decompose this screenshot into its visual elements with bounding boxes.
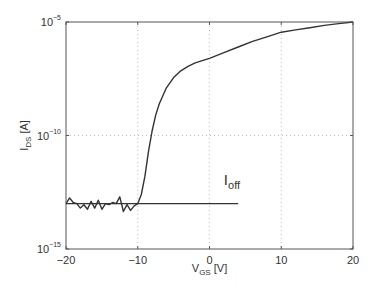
x-tick-label: 10 bbox=[275, 254, 287, 266]
x-tick-label: 20 bbox=[347, 254, 359, 266]
x-tick-label: −10 bbox=[128, 254, 147, 266]
x-tick-label: −20 bbox=[57, 254, 76, 266]
chart: −20−100102010−1510−1010−5 VGS [V]IDS [A]… bbox=[0, 0, 376, 288]
